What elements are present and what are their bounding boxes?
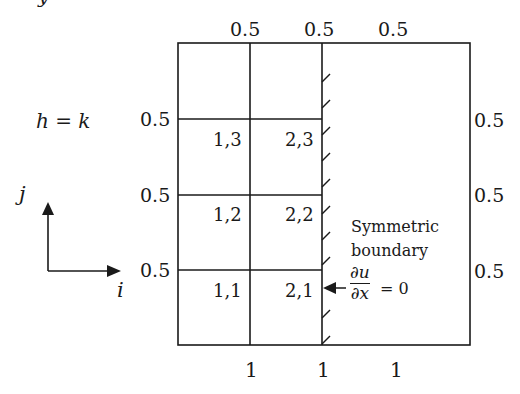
- grid-diagram: y 0.5 0.5 0.5 h = k 0.5 0.5 0.5 0.5 0.5 …: [0, 0, 520, 394]
- i-axis-label: i: [117, 280, 124, 301]
- boundary-pointer-arrow: [323, 282, 346, 294]
- node-1-3: 1,3: [213, 131, 242, 149]
- boundary-note-line2: boundary: [351, 243, 428, 259]
- top-spacing-1: 0.5: [230, 20, 260, 39]
- axis-arrows: [42, 202, 121, 277]
- node-2-2: 2,2: [285, 206, 314, 224]
- right-spacing-2: 0.5: [474, 186, 504, 205]
- boundary-equals-zero: = 0: [380, 281, 409, 297]
- right-spacing-1: 0.5: [474, 262, 504, 281]
- derivative-numerator: ∂u: [350, 264, 370, 282]
- left-spacing-3: 0.5: [140, 110, 170, 129]
- node-1-1: 1,1: [213, 282, 242, 300]
- grid-lines: [0, 0, 520, 394]
- cropped-top-label: y: [38, 0, 49, 6]
- boundary-hatch-marks: [322, 74, 330, 344]
- node-1-2: 1,2: [213, 206, 242, 224]
- right-spacing-3: 0.5: [474, 111, 504, 130]
- node-2-1: 2,1: [285, 282, 314, 300]
- top-spacing-2: 0.5: [304, 20, 334, 39]
- left-spacing-2: 0.5: [140, 186, 170, 205]
- i-arrow-head: [107, 265, 121, 277]
- j-arrow-head: [42, 202, 54, 215]
- left-spacing-1: 0.5: [140, 261, 170, 280]
- bottom-spacing-2: 1: [317, 360, 330, 380]
- bottom-spacing-1: 1: [245, 360, 258, 380]
- boundary-note-line1: Symmetric: [351, 219, 439, 235]
- bottom-spacing-3: 1: [390, 360, 403, 380]
- j-axis-label: j: [19, 184, 26, 205]
- spacing-equality-label: h = k: [36, 111, 90, 131]
- node-2-3: 2,3: [285, 131, 314, 149]
- derivative-denominator: ∂x: [350, 285, 370, 303]
- top-spacing-3: 0.5: [378, 20, 408, 39]
- boundary-derivative: ∂u ∂x: [350, 264, 370, 303]
